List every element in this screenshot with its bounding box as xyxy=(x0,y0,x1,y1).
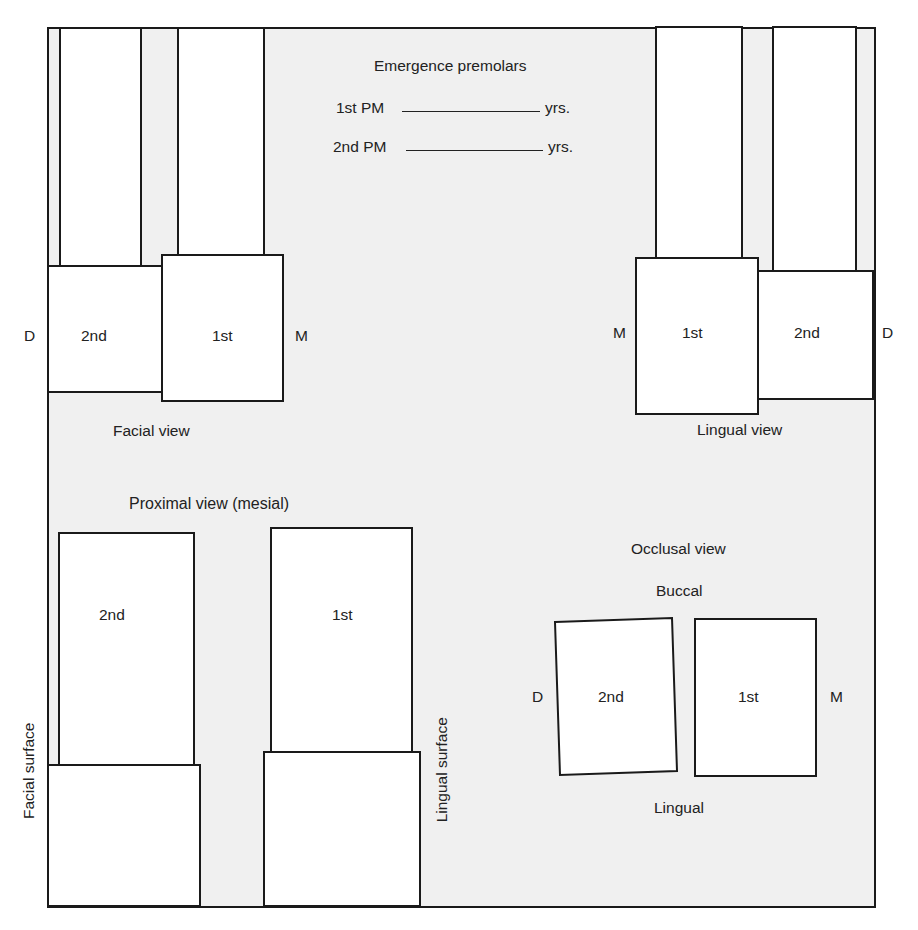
occlusal-2nd-outline xyxy=(0,0,918,930)
occlusal-1st-label: 1st xyxy=(738,689,759,705)
occlusal-lingual-label: Lingual xyxy=(654,800,704,816)
occlusal-distal-marker: D xyxy=(532,689,543,705)
occlusal-mesial-marker: M xyxy=(830,689,843,705)
occlusal-2nd-label: 2nd xyxy=(598,689,624,705)
